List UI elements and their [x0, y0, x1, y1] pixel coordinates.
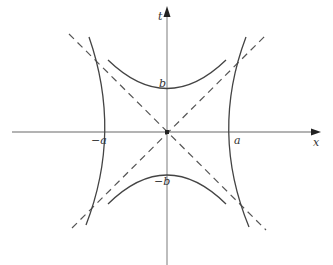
label-neg-b: −b — [154, 175, 170, 188]
t-axis-label: t — [158, 10, 163, 23]
hyperbola-diagram: t x b −b a −a — [0, 0, 333, 265]
x-axis-label: x — [313, 136, 320, 149]
diagram-svg: t x b −b a −a — [0, 0, 333, 265]
label-neg-a: −a — [91, 134, 107, 147]
label-b: b — [159, 77, 166, 90]
label-a: a — [234, 134, 241, 147]
axes — [12, 6, 321, 265]
x-axis-arrow-icon — [311, 129, 321, 136]
t-axis-arrow-icon — [164, 6, 171, 17]
left-branch — [86, 37, 105, 225]
origin-marker — [165, 130, 169, 134]
